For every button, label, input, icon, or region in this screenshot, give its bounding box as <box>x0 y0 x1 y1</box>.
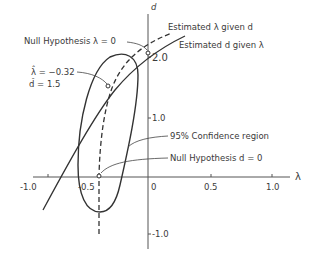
y-tick-label: 2.0 <box>152 53 168 63</box>
x-tick-label: 0.5 <box>204 183 218 192</box>
lambda-estimate-annotation: λ̂ = −0.32 <box>31 68 75 77</box>
estimate-point <box>106 84 110 88</box>
estimated-d-annotation: Estimated d given λ <box>179 41 264 50</box>
estimated-lambda-annotation: Estimated λ given d <box>168 23 253 32</box>
x-tick-label: -1.0 <box>20 183 37 192</box>
null-lambda-annotation: Null Hypothesis λ = 0 <box>24 37 116 46</box>
confidence-region-annotation: 95% Confidence region <box>170 132 269 141</box>
x-tick-label: 0 <box>151 183 156 192</box>
x-tick-label: -0.5 <box>78 183 95 192</box>
null-d-annotation: Null Hypothesis d = 0 <box>170 154 262 163</box>
d-estimate-annotation: d̂ = 1.5 <box>29 80 60 89</box>
null-lambda-point <box>146 51 150 55</box>
x-axis-label: λ <box>295 172 301 182</box>
null-d-point <box>97 174 101 178</box>
y-tick-label: 1.0 <box>152 114 166 123</box>
y-tick-label: -1.0 <box>152 230 169 239</box>
x-tick-label: 1.0 <box>266 183 280 192</box>
y-axis-label: d <box>151 3 156 12</box>
